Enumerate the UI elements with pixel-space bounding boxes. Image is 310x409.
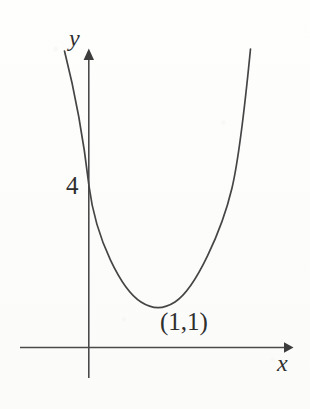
- y-axis-label: y: [69, 26, 80, 50]
- plot-canvas: [0, 0, 310, 409]
- parabola-figure: y x 4 (1,1): [0, 0, 310, 409]
- y-intercept-tick-label: 4: [66, 173, 79, 198]
- y-axis-arrowhead: [84, 49, 94, 61]
- vertex-point-label: (1,1): [160, 309, 208, 334]
- x-axis-label: x: [277, 351, 288, 375]
- parabola-curve: [65, 49, 251, 308]
